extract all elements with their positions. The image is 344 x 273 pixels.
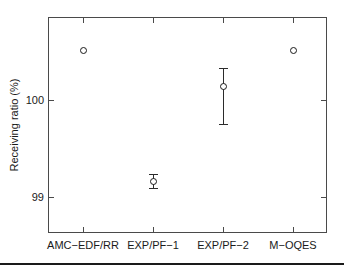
x-tick-top-2 (153, 18, 154, 23)
x-tick-top-3 (223, 18, 224, 23)
figure-container: Receiving ratio (%) 100 99 AMC−EDF/RR EX… (0, 0, 344, 273)
marker-circle (80, 47, 87, 54)
y-tick-label-99: 99 (32, 192, 44, 203)
x-tick-label-amc-edf-rr: AMC−EDF/RR (47, 239, 119, 251)
x-tick-bottom-4 (293, 227, 294, 232)
x-tick-bottom-1 (83, 227, 84, 232)
x-tick-top-1 (83, 18, 84, 23)
error-bar-cap-lower (219, 124, 228, 125)
error-bar-cap-upper (149, 174, 158, 175)
x-tick-label-m-oqes: M−OQES (269, 239, 316, 251)
y-tick-label-100: 100 (26, 95, 44, 106)
marker-circle (220, 83, 227, 90)
x-tick-label-exp-pf-1: EXP/PF−1 (127, 239, 179, 251)
error-bar-cap-upper (219, 68, 228, 69)
y-tick-right-99 (321, 197, 326, 198)
marker-circle (150, 178, 157, 185)
y-tick-100 (49, 100, 54, 101)
x-tick-label-exp-pf-2: EXP/PF−2 (197, 239, 249, 251)
error-bar-line (223, 68, 224, 124)
plot-area: 100 99 AMC−EDF/RR EXP/PF−1 EXP/PF−2 M−OQ… (48, 17, 327, 233)
figure-separator-rule (0, 263, 344, 265)
y-axis-title: Receiving ratio (%) (8, 79, 20, 172)
marker-circle (290, 47, 297, 54)
x-tick-top-4 (293, 18, 294, 23)
x-tick-bottom-3 (223, 227, 224, 232)
y-tick-right-100 (321, 100, 326, 101)
x-tick-bottom-2 (153, 227, 154, 232)
error-bar-cap-lower (149, 188, 158, 189)
y-tick-99 (49, 197, 54, 198)
